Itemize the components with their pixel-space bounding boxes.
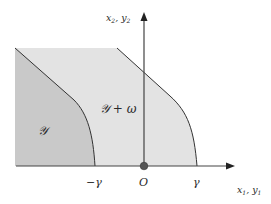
x-axis-arrow-icon (226, 163, 235, 170)
tick-neg-gamma: −γ (86, 176, 102, 189)
x-axis-label: x1, y1 (237, 184, 261, 196)
diagram-canvas: x2, y2 x1, y1 −γ O γ 𝒴 𝒴 + ω (0, 0, 271, 204)
tick-gamma: γ (193, 176, 200, 189)
y-axis-arrow-icon (141, 12, 148, 21)
tick-origin: O (139, 176, 148, 189)
y-axis-label: x2, y2 (106, 12, 131, 24)
outer-region-label: 𝒴 + ω (100, 102, 137, 116)
origin-dot (140, 162, 148, 170)
